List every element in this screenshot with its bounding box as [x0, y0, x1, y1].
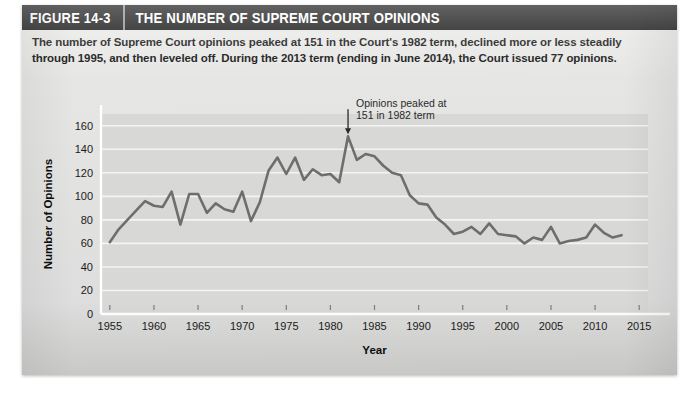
y-tick-label: 60	[81, 237, 93, 249]
y-axis-tick-labels: 020406080100120140160	[75, 120, 93, 320]
caption-line-1: The number of Supreme Court opinions pea…	[32, 35, 664, 51]
y-tick-label: 20	[81, 284, 93, 296]
x-axis-title: Year	[362, 344, 387, 356]
y-tick-label: 100	[75, 190, 93, 202]
x-tick-label: 2015	[627, 320, 651, 332]
x-tick-label: 1970	[230, 320, 254, 332]
x-tick-label: 1995	[450, 320, 474, 332]
x-tick-label: 1975	[274, 320, 298, 332]
figure-caption: The number of Supreme Court opinions pea…	[32, 35, 664, 66]
y-tick-label: 40	[81, 261, 93, 273]
x-tick-label: 1960	[142, 320, 166, 332]
y-tick-label: 120	[75, 167, 93, 179]
annotation-line-2: 151 in 1982 term	[356, 109, 435, 121]
y-tick-label: 0	[87, 308, 93, 320]
figure-header-bar: FIGURE 14-3 THE NUMBER OF SUPREME COURT …	[22, 5, 677, 30]
x-tick-label: 1985	[362, 320, 386, 332]
x-tick-label: 2000	[495, 320, 519, 332]
y-tick-label: 160	[75, 120, 93, 132]
x-tick-label: 2010	[583, 320, 607, 332]
x-axis-tick-labels: 1955196019651970197519801985199019952000…	[98, 320, 652, 332]
annotation-line-1: Opinions peaked at	[356, 97, 447, 109]
caption-line-2: through 1995, and then leveled off. Duri…	[32, 51, 664, 67]
figure-title: THE NUMBER OF SUPREME COURT OPINIONS	[125, 9, 440, 26]
x-tick-label: 1955	[98, 320, 122, 332]
figure-number-label: FIGURE 14-3	[22, 9, 119, 26]
figure-panel: FIGURE 14-3 THE NUMBER OF SUPREME COURT …	[22, 5, 677, 375]
y-tick-label: 140	[75, 143, 93, 155]
x-tick-label: 1980	[318, 320, 342, 332]
x-tick-label: 1990	[406, 320, 430, 332]
chart-area: 020406080100120140160 195519601965197019…	[22, 67, 677, 375]
x-tick-label: 2005	[539, 320, 563, 332]
x-tick-label: 1965	[186, 320, 210, 332]
y-axis-title: Number of Opinions	[42, 159, 54, 270]
line-chart: 020406080100120140160 195519601965197019…	[22, 67, 677, 375]
y-tick-label: 80	[81, 214, 93, 226]
